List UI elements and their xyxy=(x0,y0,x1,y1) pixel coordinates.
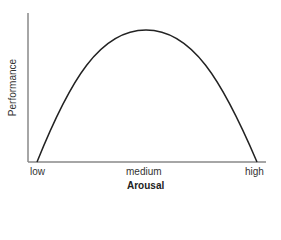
y-axis-label: Performance xyxy=(7,59,18,116)
x-tick-medium: medium xyxy=(126,166,162,177)
x-tick-high: high xyxy=(245,166,264,177)
x-tick-low: low xyxy=(30,166,45,177)
performance-curve xyxy=(37,30,257,162)
x-axis-label: Arousal xyxy=(127,180,164,191)
